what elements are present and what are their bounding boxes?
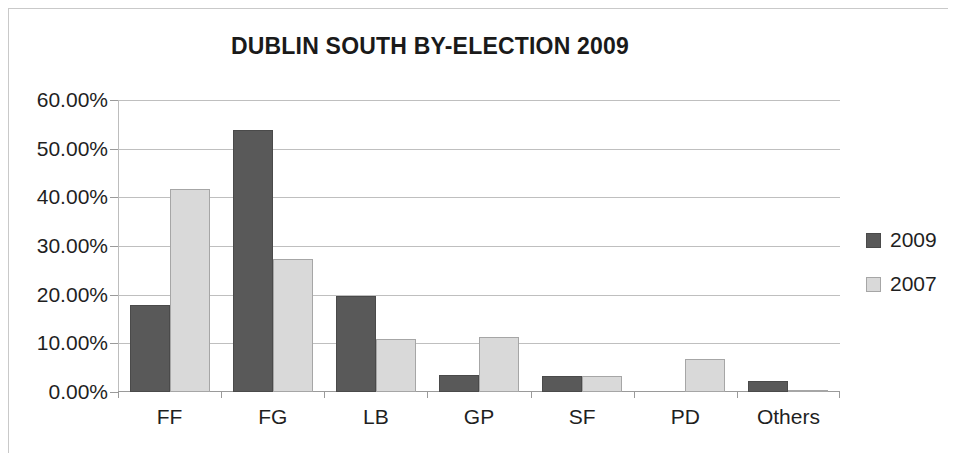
y-axis-tick-label: 10.00%: [37, 331, 108, 355]
legend-label: 2009: [890, 228, 937, 252]
x-axis-tick-label: Others: [737, 405, 840, 429]
x-axis-tick-label: SF: [531, 405, 634, 429]
x-axis-tick: [839, 392, 840, 398]
legend-label: 2007: [890, 272, 937, 296]
bar-group: [118, 100, 221, 392]
bar-pair: [118, 100, 221, 392]
bar-sf-2009: [542, 376, 582, 392]
bar-group: [221, 100, 324, 392]
x-axis-tick: [324, 392, 325, 398]
x-axis-tick: [427, 392, 428, 398]
chart-title: DUBLIN SOUTH BY-ELECTION 2009: [0, 33, 860, 60]
x-axis-tick: [737, 392, 738, 398]
bar-fg-2007: [273, 259, 313, 392]
y-axis-tick-label: 40.00%: [37, 185, 108, 209]
x-axis-tick: [118, 392, 119, 398]
legend-swatch-icon: [866, 277, 881, 292]
bar-others-2009: [748, 381, 788, 392]
x-axis-tick-label: FF: [118, 405, 221, 429]
y-axis-tick: [110, 197, 118, 198]
bar-pair: [634, 100, 737, 392]
legend-swatch-icon: [866, 233, 881, 248]
x-axis-tick: [221, 392, 222, 398]
y-axis-tick: [110, 392, 118, 393]
bar-group: [737, 100, 840, 392]
scan-border-top: [8, 8, 948, 9]
y-axis-tick-label: 50.00%: [37, 137, 108, 161]
x-axis-tick-label: LB: [324, 405, 427, 429]
bar-pair: [737, 100, 840, 392]
y-axis-tick: [110, 149, 118, 150]
bar-group: [427, 100, 530, 392]
plot-area: [118, 100, 840, 392]
x-axis-tick-label: PD: [634, 405, 737, 429]
bar-group: [634, 100, 737, 392]
bar-group: [531, 100, 634, 392]
x-axis-tick-label: GP: [427, 405, 530, 429]
bar-groups: [118, 100, 840, 392]
legend-item-2007: 2007: [866, 272, 937, 296]
bar-lb-2009: [336, 296, 376, 392]
x-axis-labels: FFFGLBGPSFPDOthers: [118, 405, 840, 429]
y-axis-tick: [110, 100, 118, 101]
bar-others-2007: [788, 390, 828, 392]
bar-pair: [221, 100, 324, 392]
bar-sf-2007: [582, 376, 622, 392]
bar-lb-2007: [376, 339, 416, 392]
bar-pair: [427, 100, 530, 392]
bar-group: [324, 100, 427, 392]
chart-legend: 20092007: [866, 228, 937, 316]
x-axis-tick: [531, 392, 532, 398]
bar-pd-2007: [685, 359, 725, 392]
y-axis-tick: [110, 343, 118, 344]
x-axis-tick-label: FG: [221, 405, 324, 429]
y-axis-tick-label: 30.00%: [37, 234, 108, 258]
bar-ff-2007: [170, 189, 210, 392]
bar-ff-2009: [130, 305, 170, 392]
y-axis-labels: 60.00%50.00%40.00%30.00%20.00%10.00%0.00…: [0, 100, 108, 392]
legend-item-2009: 2009: [866, 228, 937, 252]
bar-pair: [324, 100, 427, 392]
bar-fg-2009: [233, 130, 273, 392]
bar-gp-2007: [479, 337, 519, 392]
y-axis-tick: [110, 295, 118, 296]
y-axis-tick: [110, 246, 118, 247]
y-axis-tick-label: 20.00%: [37, 283, 108, 307]
bar-gp-2009: [439, 375, 479, 392]
y-axis-tick-label: 60.00%: [37, 88, 108, 112]
x-axis-tick: [634, 392, 635, 398]
chart-page: DUBLIN SOUTH BY-ELECTION 2009 60.00%50.0…: [0, 0, 962, 453]
y-axis-tick-label: 0.00%: [48, 380, 108, 404]
bar-pair: [531, 100, 634, 392]
